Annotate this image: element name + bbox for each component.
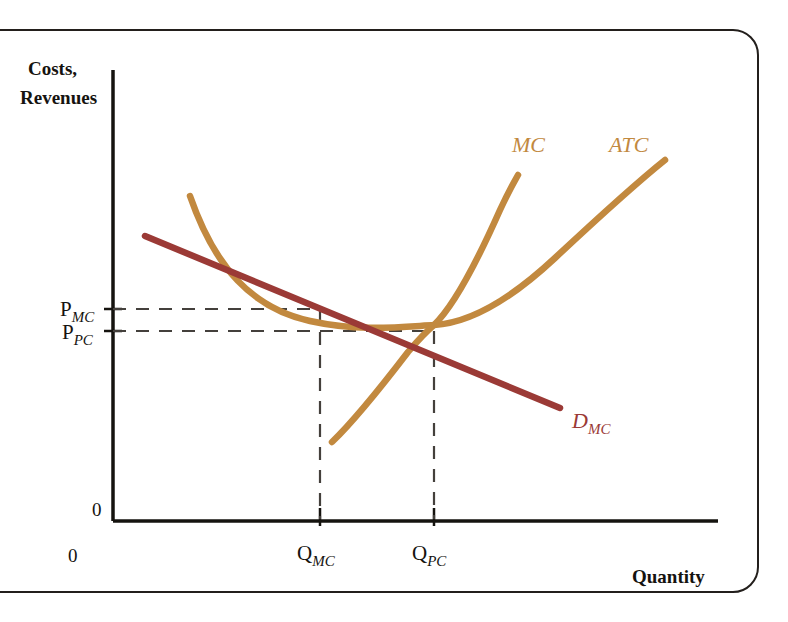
y-axis-title-line1: Costs,: [28, 58, 77, 79]
origin-label-y: 0: [92, 499, 102, 520]
x-tick-label-qpc: QPC: [412, 541, 447, 569]
y-tick-label-ppc-base: P: [62, 320, 74, 344]
mc-curve-label: MC: [511, 132, 545, 157]
atc-curve: [190, 160, 665, 328]
x-tick-label-qmc-base: Q: [297, 541, 312, 565]
atc-curve-label-base: ATC: [607, 132, 649, 157]
demand-curve-label-base: D: [571, 408, 588, 433]
atc-curve-label: ATC: [607, 132, 649, 157]
economics-diagram-figure: Costs, Revenues Quantity 0 0 PMC PPC QMC…: [0, 0, 788, 622]
x-tick-label-qpc-sub: PC: [426, 553, 447, 569]
x-tick-label-qmc-sub: MC: [311, 553, 335, 569]
origin-label-x: 0: [68, 545, 78, 566]
y-tick-label-pmc-base: P: [60, 297, 72, 321]
demand-curve-label-sub: MC: [587, 421, 611, 437]
x-tick-label-qmc: QMC: [297, 541, 336, 569]
mc-curve-label-base: MC: [511, 132, 545, 157]
x-axis-title: Quantity: [632, 566, 705, 587]
y-axis-title-line2: Revenues: [20, 87, 97, 108]
y-tick-label-ppc-sub: PC: [73, 332, 94, 348]
x-tick-label-qpc-base: Q: [412, 541, 427, 565]
diagram-canvas: Costs, Revenues Quantity 0 0 PMC PPC QMC…: [0, 0, 788, 622]
demand-curve: [145, 236, 560, 408]
demand-curve-label: DMC: [571, 408, 611, 437]
y-tick-label-pmc-sub: MC: [71, 309, 95, 325]
